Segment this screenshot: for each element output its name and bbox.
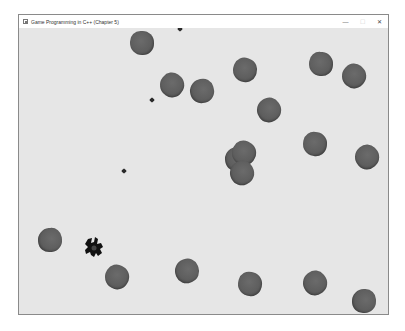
close-button[interactable]: ✕ xyxy=(371,15,388,28)
asteroid xyxy=(298,266,332,300)
asteroid xyxy=(337,59,371,93)
laser xyxy=(121,168,127,174)
asteroid xyxy=(252,93,285,126)
maximize-button: ☐ xyxy=(354,15,371,28)
ship-icon xyxy=(82,235,106,259)
asteroid xyxy=(235,269,264,298)
window-title: Game Programming in C++ (Chapter 5) xyxy=(31,19,119,25)
asteroid xyxy=(37,227,63,253)
minimize-button[interactable]: — xyxy=(337,15,354,28)
window-controls: — ☐ ✕ xyxy=(337,15,388,28)
asteroid xyxy=(130,31,154,55)
asteroid xyxy=(187,76,217,106)
laser xyxy=(149,97,155,103)
asteroid xyxy=(101,261,134,294)
app-icon xyxy=(23,19,28,24)
asteroid xyxy=(301,130,329,158)
asteroid xyxy=(171,255,202,286)
asteroid xyxy=(155,68,189,102)
asteroid xyxy=(352,289,376,313)
asteroid xyxy=(350,140,384,174)
asteroid xyxy=(229,54,260,85)
asteroid xyxy=(308,51,334,77)
title-bar[interactable]: Game Programming in C++ (Chapter 5) — ☐ … xyxy=(19,15,388,28)
game-window: Game Programming in C++ (Chapter 5) — ☐ … xyxy=(18,14,389,315)
game-canvas[interactable] xyxy=(19,28,388,314)
laser xyxy=(177,28,183,32)
